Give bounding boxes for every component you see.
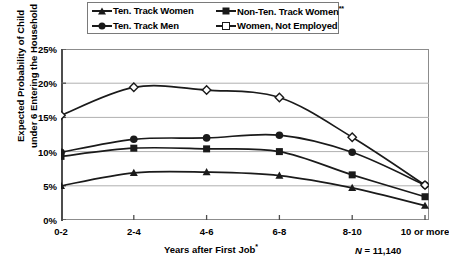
square-icon bbox=[130, 145, 137, 152]
sample-size-symbol: N bbox=[355, 245, 362, 256]
y-axis-title-line2: under 6 Entering the Household bbox=[28, 4, 39, 148]
chart-legend: Ten. Track Women Ten. Track Men Non-Ten.… bbox=[87, 2, 339, 34]
circle-icon bbox=[203, 134, 211, 142]
x-axis-tick-labels: 0-22-44-66-88-1010 or more bbox=[61, 226, 429, 240]
open-diamond-icon bbox=[348, 133, 356, 141]
series-ten-track-women bbox=[61, 168, 429, 209]
legend-label-ten-track-men: Ten. Track Men bbox=[113, 20, 179, 31]
series-line bbox=[61, 134, 425, 185]
series-line bbox=[61, 171, 425, 205]
y-axis-title: Expected Probability of Child under 6 En… bbox=[14, 0, 40, 176]
square-icon bbox=[203, 145, 210, 152]
circle-icon bbox=[348, 148, 356, 156]
data-series-layer bbox=[61, 83, 429, 209]
x-axis-tick-label: 2-4 bbox=[127, 226, 141, 237]
square-icon bbox=[422, 193, 429, 200]
x-axis-tick-label: 4-6 bbox=[200, 226, 214, 237]
sample-size-note: N = 11,140 bbox=[355, 245, 401, 256]
circle-icon bbox=[276, 131, 284, 139]
circle-icon bbox=[130, 135, 138, 143]
legend-label-non-ten-track-women-text: Non-Ten. Track Women bbox=[237, 7, 339, 18]
y-axis-title-line1: Expected Probability of Child bbox=[15, 10, 26, 142]
square-icon bbox=[215, 3, 237, 18]
sample-size-value: = 11,140 bbox=[362, 245, 401, 256]
y-axis-tick-label: 5% bbox=[29, 180, 57, 191]
y-axis-ticks bbox=[61, 49, 66, 220]
legend-label-non-ten-track-women-suffix: ** bbox=[339, 5, 344, 12]
legend-column-left: Ten. Track Women Ten. Track Men bbox=[91, 3, 194, 33]
y-axis-tick-label: 0% bbox=[29, 215, 57, 226]
square-icon bbox=[349, 171, 356, 178]
series-ten-track-men bbox=[61, 131, 429, 189]
x-axis-tick-label: 6-8 bbox=[273, 226, 287, 237]
legend-label-ten-track-women: Ten. Track Women bbox=[113, 5, 194, 16]
circle-icon bbox=[91, 18, 113, 33]
legend-entry-ten-track-women: Ten. Track Women bbox=[91, 3, 194, 18]
open-diamond-icon bbox=[61, 111, 65, 119]
open-diamond-icon bbox=[275, 93, 283, 101]
x-axis-tick-label: 8-10 bbox=[343, 226, 362, 237]
legend-label-women-not-employed: Women, Not Employed bbox=[237, 20, 337, 31]
x-axis-title: Years after First Job* bbox=[61, 243, 361, 255]
legend-label-non-ten-track-women: Non-Ten. Track Women** bbox=[237, 3, 344, 17]
legend-entry-non-ten-track-women: Non-Ten. Track Women** bbox=[215, 3, 344, 18]
legend-entry-ten-track-men: Ten. Track Men bbox=[91, 18, 194, 33]
square-icon bbox=[61, 153, 65, 160]
open-diamond-icon bbox=[130, 83, 138, 91]
open-diamond-icon bbox=[215, 18, 237, 33]
legend-column-right: Non-Ten. Track Women** Women, Not Employ… bbox=[215, 3, 344, 33]
x-axis-ticks bbox=[61, 215, 425, 220]
x-axis-tick-label: 0-2 bbox=[54, 226, 68, 237]
plot-canvas bbox=[61, 49, 429, 220]
x-axis-title-suffix: * bbox=[255, 243, 258, 250]
x-axis-tick-label: 10 or more bbox=[401, 226, 449, 237]
x-axis-title-text: Years after First Job bbox=[164, 244, 255, 255]
legend-entry-women-not-employed: Women, Not Employed bbox=[215, 18, 344, 33]
open-diamond-icon bbox=[202, 86, 210, 94]
triangle-icon bbox=[91, 3, 113, 18]
square-icon bbox=[276, 148, 283, 155]
series-line bbox=[61, 148, 425, 197]
